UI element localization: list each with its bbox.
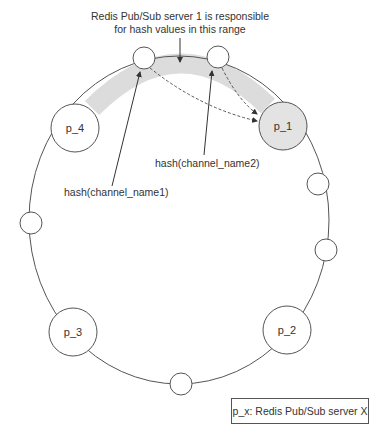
ring-node [315, 239, 337, 261]
svg-text:p_3: p_3 [64, 326, 82, 338]
label-hash-channel1: hash(channel_name1) [64, 186, 169, 198]
svg-text:p_2: p_2 [278, 324, 296, 336]
svg-text:p_1: p_1 [274, 120, 292, 132]
server-node-p4: p_4 [51, 104, 99, 152]
svg-text:p_4: p_4 [66, 122, 84, 134]
server-node-p1: p_1 [259, 102, 307, 150]
pointer-channel2 [204, 71, 212, 155]
annotation-line2: for hash values in this range [114, 23, 245, 35]
hash-node-channel1 [133, 47, 155, 69]
ring-node [20, 212, 42, 234]
ring-node [170, 373, 192, 395]
server-node-p3: p_3 [49, 308, 97, 356]
hash-ring-diagram: p_1 p_2 p_3 p_4 Redis Pub/Sub server 1 i… [0, 0, 385, 442]
annotation-line1: Redis Pub/Sub server 1 is responsible [91, 10, 269, 22]
hash-node-channel2 [207, 46, 229, 68]
label-hash-channel2: hash(channel_name2) [155, 157, 260, 169]
legend-box: p_x: Redis Pub/Sub server X [231, 398, 369, 424]
ring-node [307, 173, 329, 195]
server-node-p2: p_2 [263, 306, 311, 354]
